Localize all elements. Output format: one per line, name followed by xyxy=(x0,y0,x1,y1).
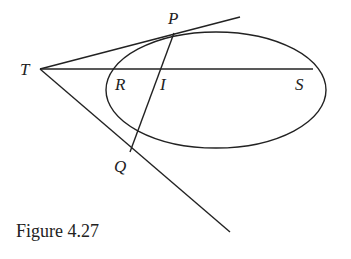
tangent-line-tq xyxy=(40,69,230,232)
label-r: R xyxy=(114,75,126,94)
label-p: P xyxy=(167,9,178,28)
label-i: I xyxy=(159,75,167,94)
label-s: S xyxy=(295,75,304,94)
chord-pq xyxy=(130,33,174,152)
tangent-line-tp xyxy=(40,17,240,69)
figure-diagram: T P R I S Q Figure 4.27 xyxy=(0,0,351,259)
figure-caption: Figure 4.27 xyxy=(16,221,99,241)
label-q: Q xyxy=(114,157,126,176)
ellipse xyxy=(106,32,326,148)
label-t: T xyxy=(20,60,31,79)
